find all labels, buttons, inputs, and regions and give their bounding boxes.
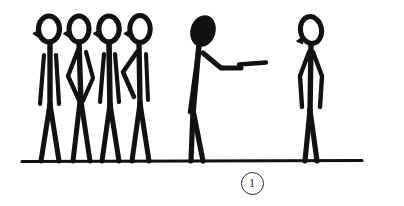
stick-figure-drawing bbox=[0, 0, 404, 206]
figure-5-pointing-finger bbox=[239, 63, 266, 65]
figure-1-arm-right bbox=[56, 55, 59, 104]
figure-3-torso bbox=[109, 42, 110, 106]
figure-4-arm-right bbox=[146, 54, 148, 100]
sketch-frame: 1 bbox=[0, 0, 404, 206]
ground-line bbox=[22, 161, 362, 162]
